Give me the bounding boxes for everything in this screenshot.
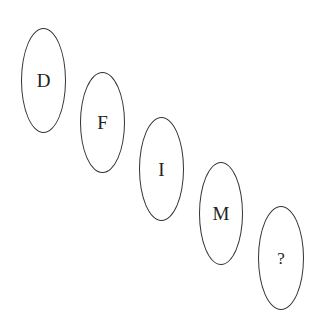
node-label-2: F — [97, 113, 108, 132]
ellipse-node-unknown: ? — [258, 206, 304, 310]
node-label-4: M — [213, 204, 230, 223]
ellipse-node-2: F — [80, 72, 125, 173]
question-mark-label: ? — [277, 250, 285, 267]
sequence-diagram: D F I M ? — [0, 0, 313, 328]
node-label-1: D — [37, 71, 51, 90]
ellipse-node-3: I — [139, 117, 184, 221]
ellipse-node-4: M — [199, 162, 243, 265]
node-label-3: I — [158, 160, 164, 179]
ellipse-node-1: D — [21, 28, 66, 133]
